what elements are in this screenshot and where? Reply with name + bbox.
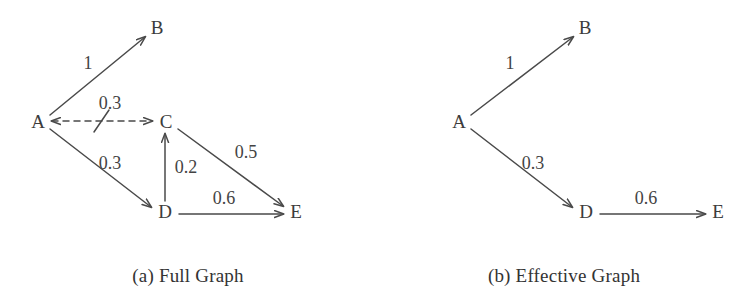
edge-weight-d-c: 0.2 (175, 158, 198, 176)
edge-weight-d-e: 0.6 (635, 189, 658, 207)
full-graph-canvas: C dashed (weight 0.3) crossed out --> (0, 0, 376, 245)
node-c[interactable]: C (160, 112, 173, 131)
edge-weight-a-d: 0.3 (522, 154, 545, 172)
caption-effective-graph: (b) Effective Graph (376, 265, 752, 287)
edge-weight-d-e: 0.6 (213, 189, 236, 207)
caption-full-graph: (a) Full Graph (0, 265, 376, 287)
node-e[interactable]: E (712, 202, 724, 221)
node-b[interactable]: B (579, 18, 592, 37)
node-a[interactable]: A (452, 112, 466, 131)
figure-two-graphs: C dashed (weight 0.3) crossed out --> A … (0, 0, 752, 295)
node-e[interactable]: E (290, 202, 302, 221)
panel-effective-graph: A B D E 1 0.3 0.6 (b) Effective Graph (376, 0, 752, 295)
edge-weight-a-c: 0.3 (99, 94, 122, 112)
node-d[interactable]: D (579, 202, 593, 221)
edge-a-b (50, 37, 145, 115)
edge-a-b (471, 37, 573, 115)
edge-weight-a-d: 0.3 (99, 154, 122, 172)
node-d[interactable]: D (158, 202, 172, 221)
edge-weight-c-e: 0.5 (235, 143, 258, 161)
effective-graph-canvas (376, 0, 752, 245)
node-b[interactable]: B (151, 18, 164, 37)
edge-weight-a-b: 1 (506, 54, 515, 72)
node-a[interactable]: A (31, 112, 45, 131)
panel-full-graph: C dashed (weight 0.3) crossed out --> A … (0, 0, 376, 295)
edge-weight-a-b: 1 (84, 54, 93, 72)
